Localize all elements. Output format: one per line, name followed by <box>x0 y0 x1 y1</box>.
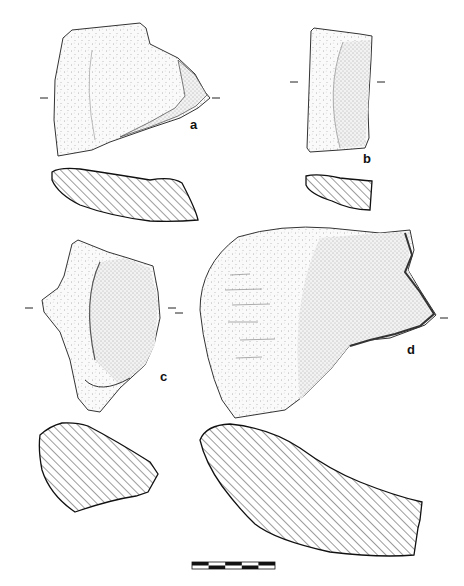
label-b: b <box>363 152 371 165</box>
artefact-c-face <box>25 240 176 412</box>
label-d: d <box>407 343 415 356</box>
artefact-d-face <box>175 227 448 418</box>
scale-bar <box>192 562 275 569</box>
label-a: a <box>190 118 197 131</box>
artefact-a-face <box>40 23 220 156</box>
artefact-a-section <box>52 168 198 221</box>
artefact-plate <box>0 0 464 586</box>
artefact-c-section <box>39 423 158 512</box>
artefact-b-section <box>306 175 372 210</box>
label-c: c <box>160 370 167 383</box>
artefact-b-face <box>290 28 385 152</box>
artefact-d-section <box>200 424 422 556</box>
